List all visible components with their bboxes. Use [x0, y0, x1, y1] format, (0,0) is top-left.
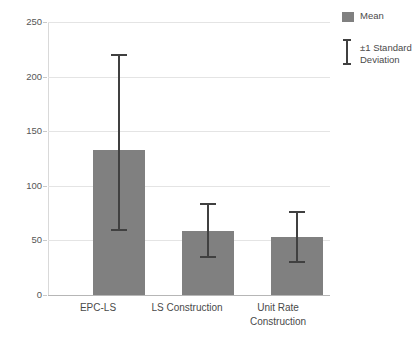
tick-mark [43, 22, 47, 23]
tick-mark [43, 131, 47, 132]
x-label-line: Unit Rate [241, 301, 315, 315]
x-label-line: LS Construction [147, 301, 227, 315]
x-label-line: EPC-LS [63, 301, 133, 315]
legend-label-mean: Mean [360, 10, 418, 22]
errorbar-line-epc-ls [118, 54, 120, 231]
x-label-epc-ls: EPC-LS [63, 301, 133, 315]
errorbar-icon [346, 39, 348, 65]
tick-mark [43, 186, 47, 187]
y-tick-label: 0 [12, 290, 42, 300]
x-label-ls-construction: LS Construction [147, 301, 227, 315]
errorbar-cap-upper-unit-rate-construction [289, 211, 305, 213]
x-label-unit-rate-construction: Unit Rate Construction [241, 301, 315, 329]
errorbar-cap-lower-epc-ls [111, 229, 127, 231]
y-tick-150: 150 [10, 126, 42, 136]
plot-area [48, 22, 330, 295]
errorbar-cap-upper-ls-construction [200, 203, 216, 205]
bar-chart: Days from ITB to Receipt of Bids 250 200… [0, 0, 420, 341]
y-tick-50: 50 [10, 235, 42, 245]
errorbar-line-ls-construction [207, 203, 209, 258]
legend-square-icon [342, 12, 354, 22]
grid-line-200 [48, 77, 330, 78]
legend: Mean ±1 Standard Deviation [342, 10, 418, 82]
y-tick-250: 250 [10, 17, 42, 27]
y-tick-100: 100 [10, 181, 42, 191]
legend-item-mean[interactable]: Mean [342, 10, 418, 24]
x-axis-line [48, 295, 330, 296]
legend-label-std-dev: ±1 Standard Deviation [360, 38, 418, 66]
y-tick-label: 50 [12, 235, 42, 245]
tick-mark [43, 295, 47, 296]
y-tick-label: 200 [12, 72, 42, 82]
grid-line-250 [48, 22, 330, 23]
y-tick-label: 250 [12, 17, 42, 27]
grid-line-150 [48, 131, 330, 132]
tick-mark [43, 240, 47, 241]
y-tick-200: 200 [10, 72, 42, 82]
grid-line-100 [48, 186, 330, 187]
x-label-line: Construction [241, 315, 315, 329]
legend-item-std-dev[interactable]: ±1 Standard Deviation [342, 38, 418, 68]
tick-mark [43, 77, 47, 78]
errorbar-cap-lower-unit-rate-construction [289, 261, 305, 263]
errorbar-line-unit-rate-construction [296, 211, 298, 263]
y-axis-title: Days from ITB to Receipt of Bids [2, 310, 18, 341]
y-tick-0: 0 [10, 290, 42, 300]
errorbar-cap-lower-ls-construction [200, 256, 216, 258]
y-tick-label: 150 [12, 126, 42, 136]
y-tick-label: 100 [12, 181, 42, 191]
errorbar-cap-upper-epc-ls [111, 54, 127, 56]
